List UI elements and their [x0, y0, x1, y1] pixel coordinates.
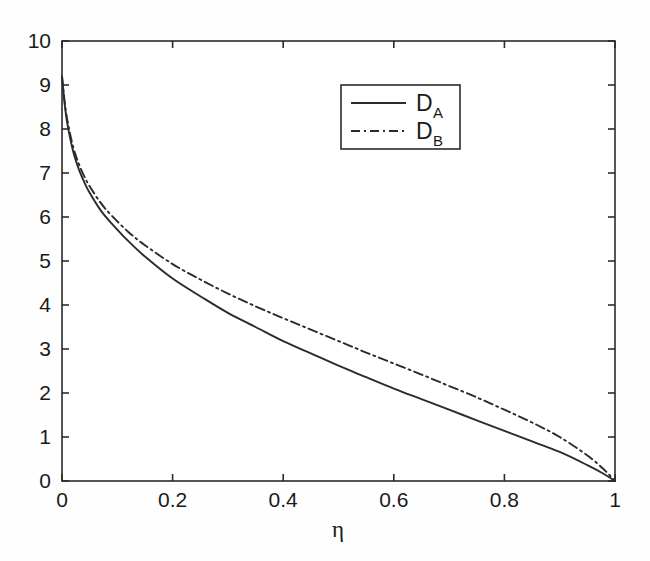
legend: D A D B	[341, 85, 460, 149]
legend-sublabel-da: A	[433, 104, 443, 121]
x-axis-tick-labels: 00.20.40.60.81	[56, 488, 621, 511]
y-tick-label: 5	[39, 249, 51, 272]
y-tick-label: 9	[39, 73, 51, 96]
y-tick-label: 7	[39, 161, 51, 184]
x-tick-label: 0	[56, 488, 68, 511]
y-tick-label: 0	[39, 469, 51, 492]
legend-sublabel-db: B	[433, 132, 443, 149]
x-tick-label: 0.2	[158, 488, 187, 511]
chart-figure: 00.20.40.60.81 012345678910 η D A D B	[0, 0, 650, 561]
y-tick-label: 10	[28, 29, 51, 52]
x-axis-title: η	[332, 517, 344, 542]
legend-label-db: D	[416, 118, 433, 144]
y-tick-label: 6	[39, 205, 51, 228]
legend-label-da: D	[416, 90, 433, 116]
x-tick-label: 1	[609, 488, 621, 511]
plot-frame	[62, 41, 615, 481]
x-tick-label: 0.8	[490, 488, 519, 511]
y-tick-label: 1	[39, 425, 51, 448]
y-tick-label: 8	[39, 117, 51, 140]
x-tick-label: 0.6	[379, 488, 408, 511]
line-chart: 00.20.40.60.81 012345678910 η D A D B	[0, 0, 650, 561]
y-tick-label: 3	[39, 337, 51, 360]
y-tick-label: 2	[39, 381, 51, 404]
y-axis-tick-labels: 012345678910	[28, 29, 52, 492]
y-tick-label: 4	[39, 293, 51, 316]
x-tick-label: 0.4	[269, 488, 299, 511]
